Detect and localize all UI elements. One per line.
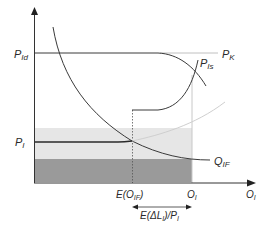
p-is-curve (132, 60, 198, 110)
diagram-canvas: PId PK PIs PI QIF E(OIF) OI OI E(ΔLI)/PI (0, 0, 269, 230)
dark-band (35, 159, 192, 182)
label-p-is: PIs (200, 57, 214, 71)
y-axis-arrow-icon (31, 7, 38, 15)
label-p-i: PI (15, 136, 25, 150)
delta-arrow-right-icon (186, 205, 192, 210)
delta-arrow-left-icon (132, 205, 138, 210)
label-e-oif: E(OIF) (116, 189, 143, 201)
label-p-k: PK (222, 48, 235, 62)
x-axis-arrow-icon (247, 180, 256, 187)
label-p-id: PId (14, 48, 29, 62)
label-x-axis: OI (246, 189, 256, 201)
label-e-delta-l: E(ΔLI)/PI (140, 210, 179, 222)
label-q-if: QIF (214, 155, 231, 169)
label-o-i-tick: OI (187, 189, 197, 201)
